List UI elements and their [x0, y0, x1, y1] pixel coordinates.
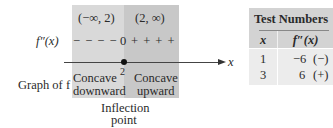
axis-arrow-icon	[218, 59, 226, 65]
test-numbers-table: Test Numbers x f″(x) 1 −6 (−) 3 6 (+)	[249, 8, 333, 82]
header-x: x	[249, 34, 277, 47]
concavity-right-line2: upward	[137, 85, 175, 98]
row-x: 1	[249, 53, 277, 66]
inflection-point-dot	[121, 59, 127, 65]
concavity-right-line1: Concave	[134, 72, 178, 85]
row-sign: (+)	[313, 69, 328, 82]
body-column-divider	[277, 49, 278, 85]
header-rule	[259, 30, 329, 31]
x-axis-line	[64, 62, 219, 63]
x-axis-label: x	[228, 56, 234, 69]
row-value: −6	[293, 53, 306, 66]
concavity-left-line2: downward	[73, 85, 126, 98]
concavity-left-line1: Concave	[73, 72, 117, 85]
inflection-annotation-line2: point	[111, 114, 137, 127]
header-second-derivative: f″(x)	[278, 34, 333, 47]
interval-right-label: (2, ∞)	[135, 12, 165, 25]
positive-signs: + + + +	[131, 35, 176, 48]
zero-marker: 0	[120, 35, 126, 48]
table-title: Test Numbers	[249, 13, 333, 26]
second-derivative-row-label: f″(x)	[36, 35, 59, 48]
interval-left-label: (−∞, 2)	[78, 12, 115, 25]
row-sign: (−)	[313, 53, 328, 66]
negative-signs: − − − −	[73, 35, 118, 48]
graph-row-label: Graph of f	[18, 79, 70, 92]
critical-point-label: 2	[120, 67, 125, 77]
row-value: 6	[299, 69, 305, 82]
row-x: 3	[249, 69, 277, 82]
